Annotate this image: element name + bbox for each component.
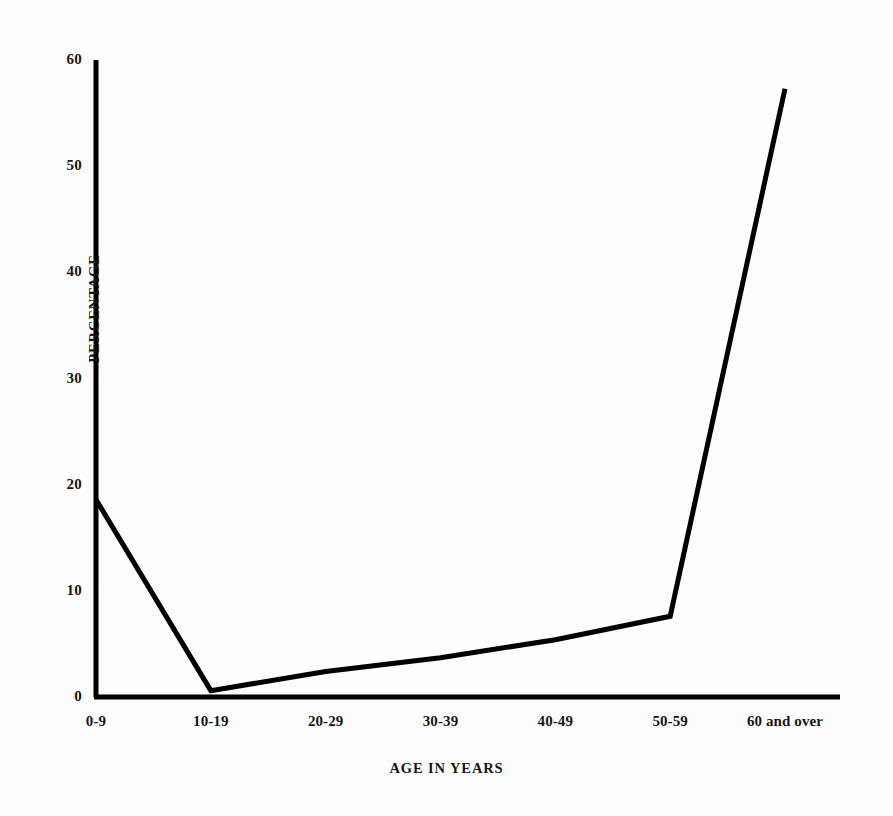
x-axis-title: AGE IN YEARS	[0, 760, 893, 777]
y-tick-label: 40	[28, 263, 82, 280]
data-series-line	[96, 89, 785, 691]
line-chart-plot	[0, 0, 893, 816]
y-axis-title: PERCENTAGE	[86, 229, 103, 389]
y-tick-label: 20	[28, 476, 82, 493]
y-tick-label: 30	[28, 370, 82, 387]
y-tick-label: 10	[28, 582, 82, 599]
y-tick-label: 60	[28, 51, 82, 68]
chart-axes	[94, 60, 840, 697]
y-tick-label: 0	[28, 688, 82, 705]
x-tick-label: 60 and over	[710, 713, 860, 730]
chart-figure: 0102030405060 0-910-1920-2930-3940-4950-…	[0, 0, 893, 816]
y-tick-label: 50	[28, 157, 82, 174]
